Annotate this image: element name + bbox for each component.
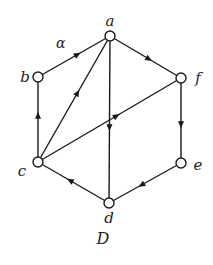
edge-a-d [109,36,110,203]
node-d [104,198,114,208]
arrowhead-c-b-icon [35,112,41,119]
node-label-d: d [104,209,114,227]
node-c [33,157,43,167]
node-label-e: e [194,156,203,174]
node-a [105,31,115,41]
edge-b-a [38,36,110,77]
arrowhead-f-e-icon [178,121,184,128]
edges-layer [35,36,184,203]
edge-label-alpha: α [56,35,66,51]
arrowhead-a-d-icon [106,124,112,131]
directed-graph: abcdef α D [0,0,213,265]
node-label-b: b [20,68,30,86]
node-label-f: f [194,69,203,87]
node-label-a: a [106,12,115,30]
node-f [176,73,186,83]
node-e [176,158,186,168]
graph-title: D [96,229,110,248]
node-label-c: c [18,162,27,180]
edge-e-d [109,163,181,203]
node-b [33,72,43,82]
edge-a-f [110,36,181,78]
edge-d-c [38,162,109,203]
